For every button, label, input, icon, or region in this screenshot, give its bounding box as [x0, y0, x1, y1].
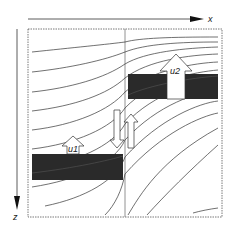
u2-label: u2: [170, 66, 180, 76]
x-axis-label: x: [207, 14, 213, 24]
fault-displacement-diagram: x z u1 u2: [0, 0, 238, 241]
z-axis: [14, 29, 20, 210]
fault-slip-up-arrow: [124, 114, 138, 148]
u1-label: u1: [68, 144, 78, 154]
x-axis: [28, 16, 204, 22]
z-axis-label: z: [12, 212, 18, 222]
left-block: [32, 154, 123, 180]
